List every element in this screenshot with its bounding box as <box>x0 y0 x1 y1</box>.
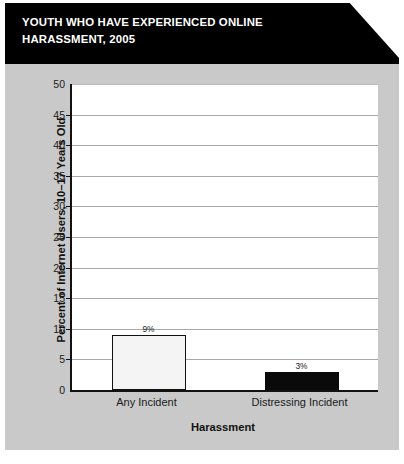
y-tick-label: 40 <box>53 139 65 151</box>
chart-panel: Percent of Internet Users, 10–17 Years O… <box>5 64 399 450</box>
title-line-1: YOUTH WHO HAVE EXPERIENCED ONLINE <box>22 14 352 31</box>
gridline <box>72 84 378 85</box>
gridline <box>72 206 378 207</box>
y-tick-label: 25 <box>53 231 65 243</box>
y-tick-label: 0 <box>59 384 65 396</box>
y-tick-label: 35 <box>53 170 65 182</box>
y-tick-mark <box>66 115 72 116</box>
bar-value-label: 3% <box>295 361 307 371</box>
gridline <box>72 237 378 238</box>
plot-area: 05101520253035404550 9%3% <box>70 84 378 392</box>
y-tick-label: 10 <box>53 323 65 335</box>
page-title: YOUTH WHO HAVE EXPERIENCED ONLINE HARASS… <box>22 14 352 48</box>
x-tick-label: Any Incident <box>116 396 177 408</box>
x-tick-label: Distressing Incident <box>252 396 348 408</box>
y-tick-mark <box>66 176 72 177</box>
bar-distressing-incident: 3% <box>265 372 339 390</box>
y-tick-label: 15 <box>53 292 65 304</box>
y-tick-label: 5 <box>59 353 65 365</box>
y-tick-label: 45 <box>53 109 65 121</box>
title-line-2: HARASSMENT, 2005 <box>22 31 352 48</box>
bar-any-incident: 9% <box>112 335 186 390</box>
gridline <box>72 115 378 116</box>
y-tick-mark <box>66 268 72 269</box>
title-banner: YOUTH WHO HAVE EXPERIENCED ONLINE HARASS… <box>5 3 399 64</box>
y-tick-mark <box>66 359 72 360</box>
y-tick-label: 30 <box>53 200 65 212</box>
gridline <box>72 176 378 177</box>
x-axis-title: Harassment <box>70 421 376 433</box>
y-tick-label: 50 <box>53 78 65 90</box>
y-axis-title: Percent of Internet Users, 10–17 Years O… <box>55 80 67 380</box>
chart-figure: YOUTH WHO HAVE EXPERIENCED ONLINE HARASS… <box>0 0 404 464</box>
bar-value-label: 9% <box>142 324 154 334</box>
y-tick-mark <box>66 298 72 299</box>
y-tick-mark <box>66 329 72 330</box>
gridline <box>72 268 378 269</box>
gridline <box>72 145 378 146</box>
gridline <box>72 329 378 330</box>
y-tick-label: 20 <box>53 262 65 274</box>
y-tick-mark <box>66 145 72 146</box>
y-tick-mark <box>66 206 72 207</box>
gridline <box>72 298 378 299</box>
y-tick-mark <box>66 237 72 238</box>
